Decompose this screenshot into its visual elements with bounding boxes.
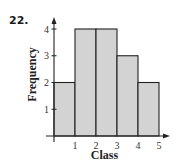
x-tick-label: 5 xyxy=(157,140,162,151)
y-axis-title: Frequency xyxy=(25,47,39,101)
x-tick-label: 1 xyxy=(73,140,78,151)
histogram-bar xyxy=(138,83,159,137)
y-tick-label: 3 xyxy=(44,50,49,61)
histogram-bar xyxy=(75,29,96,136)
y-tick-label: 2 xyxy=(44,77,49,88)
histogram-bar xyxy=(96,29,117,136)
y-tick-label: 4 xyxy=(44,24,49,35)
y-axis-arrow-icon xyxy=(52,17,57,24)
histogram-chart: 123412345ClassFrequency xyxy=(0,0,179,166)
histogram-bar xyxy=(54,83,75,137)
x-tick-label: 4 xyxy=(136,140,141,151)
x-axis-title: Class xyxy=(91,148,119,162)
x-axis-arrow-icon xyxy=(163,134,170,139)
histogram-bar xyxy=(117,56,138,136)
y-tick-label: 1 xyxy=(44,104,49,115)
